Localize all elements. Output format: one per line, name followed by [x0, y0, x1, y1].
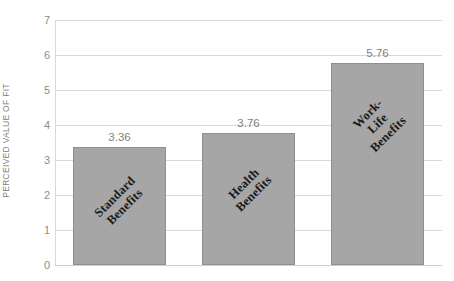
plot-area: Standard Benefits3.36Health Benefits3.76…: [55, 20, 442, 265]
bar-3[interactable]: Work-Life Benefits: [331, 63, 424, 265]
bar-1[interactable]: Standard Benefits: [73, 147, 166, 265]
y-tick-label-7: 7: [28, 15, 50, 26]
bar-2[interactable]: Health Benefits: [202, 133, 295, 265]
y-tick-label-2: 2: [28, 190, 50, 201]
y-tick-label-1: 1: [28, 225, 50, 236]
y-axis-title: PERCEIVED VALUE OF FIT: [0, 0, 26, 281]
bar-category-label-2: Health Benefits: [223, 163, 275, 215]
y-tick-label-0: 0: [28, 260, 50, 271]
y-tick-label-3: 3: [28, 155, 50, 166]
bar-category-label-3: Work-Life Benefits: [346, 93, 409, 156]
gridline-7: [55, 20, 442, 21]
bar-chart: PERCEIVED VALUE OF FIT 76543210 Standard…: [0, 0, 454, 281]
y-axis-line: [55, 20, 56, 265]
bar-value-label-1: 3.36: [108, 132, 130, 144]
bar-category-label-1: Standard Benefits: [91, 173, 148, 230]
y-tick-label-6: 6: [28, 50, 50, 61]
bar-value-label-2: 3.76: [237, 118, 259, 130]
y-tick-label-5: 5: [28, 85, 50, 96]
y-axis-tick-labels: 76543210: [26, 0, 50, 281]
bar-value-label-3: 5.76: [366, 48, 388, 60]
y-tick-label-4: 4: [28, 120, 50, 131]
gridline-0: [55, 265, 442, 266]
